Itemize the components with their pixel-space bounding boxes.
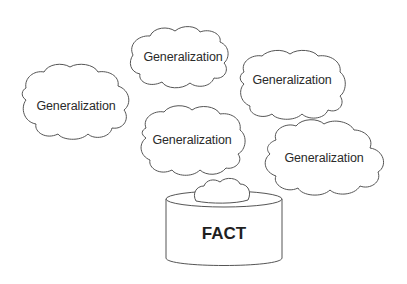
fact-label: FACT — [202, 224, 246, 244]
cloud-label-middle: Generalization — [152, 133, 231, 147]
cloud-label-right-bottom: Generalization — [284, 151, 363, 165]
cloud-label-right-top: Generalization — [252, 73, 331, 87]
cloud-label-left: Generalization — [36, 99, 115, 113]
cloud-label-top: Generalization — [143, 50, 222, 64]
fact-cylinder — [166, 178, 282, 265]
